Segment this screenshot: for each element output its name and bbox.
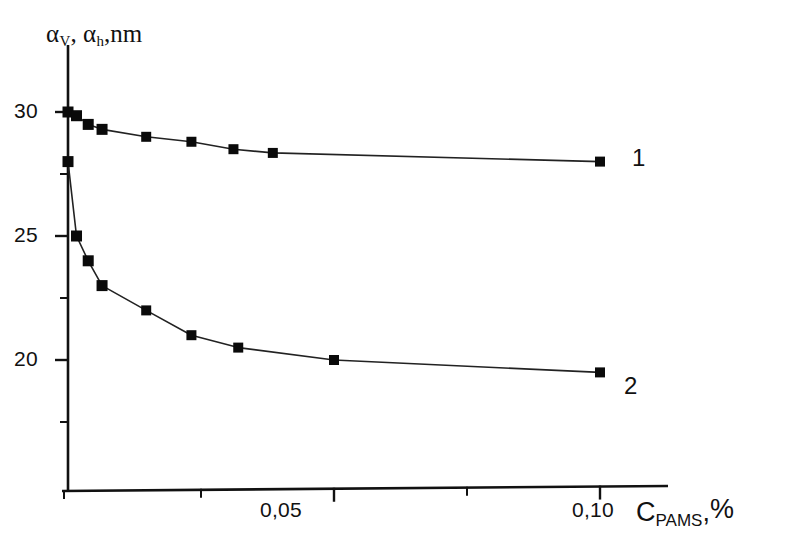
x-axis-title-percent: %: [710, 494, 734, 524]
x-tick-label-010: 0,10: [572, 498, 614, 522]
y-axis-title: αV, αh,nm: [46, 20, 142, 50]
x-axis-line: [62, 486, 668, 491]
y-axis-title-sub-v: V: [59, 33, 70, 49]
data-point-2-2: [83, 255, 94, 266]
x-axis-title: CPAMS,%: [636, 494, 734, 531]
axes-group: [62, 45, 668, 491]
data-point-1-2: [83, 119, 94, 130]
data-point-1-3: [97, 124, 108, 135]
data-point-1-1: [71, 110, 82, 121]
curve-label-1: 1: [632, 144, 645, 172]
series-2: [63, 156, 606, 377]
data-point-2-4: [141, 305, 151, 315]
curve-label-2: 2: [624, 372, 637, 400]
data-point-2-1: [71, 231, 82, 242]
y-axis-title-alpha-v: α: [46, 20, 59, 47]
y-tick-label-30: 30: [14, 99, 38, 123]
data-point-2-0: [63, 156, 74, 167]
y-tick-label-20: 20: [14, 347, 38, 371]
y-tick-label-25: 25: [14, 223, 38, 247]
data-series-layer: [63, 107, 606, 378]
data-point-2-8: [595, 367, 605, 377]
data-point-2-5: [186, 330, 196, 340]
y-axis-title-sub-h: h: [96, 33, 104, 49]
data-point-2-6: [233, 343, 243, 353]
data-point-1-5: [186, 137, 196, 147]
x-axis-title-comma: ,: [702, 497, 710, 527]
data-point-1-4: [141, 132, 151, 142]
y-axis-title-unit: ,nm: [104, 20, 142, 47]
series-1: [63, 107, 606, 167]
data-point-2-7: [329, 355, 339, 365]
chart-figure: αV, αh,nm CPAMS,% 30 25 20 0,05 0,10 1 2: [0, 0, 789, 549]
x-axis-title-sub-pams: PAMS: [656, 511, 703, 530]
data-point-2-3: [97, 280, 108, 291]
chart-plot-area: [0, 0, 789, 549]
data-point-1-6: [228, 144, 238, 154]
x-tick-label-005: 0,05: [260, 498, 302, 522]
series-line-2: [68, 162, 600, 373]
data-point-1-7: [268, 148, 278, 158]
x-axis-title-c: C: [636, 497, 656, 527]
data-point-1-8: [595, 157, 605, 167]
y-axis-title-separator: , α: [70, 20, 96, 47]
